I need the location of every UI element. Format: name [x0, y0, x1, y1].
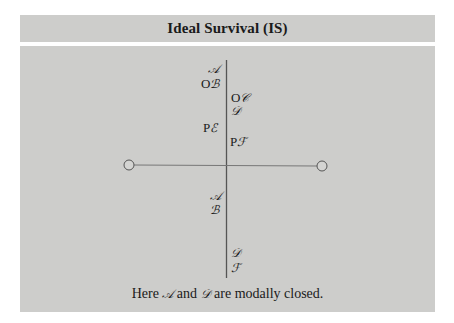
left-endpoint-circle [124, 160, 134, 170]
diagram-label-above-left: 𝒜 [208, 62, 219, 76]
script-symbol: ℰ [210, 121, 217, 135]
diagram-label-above-right: Pℱ [230, 135, 246, 149]
caption-symbol-a: 𝒜 [162, 287, 173, 301]
script-symbol: 𝒞 [240, 91, 249, 105]
right-endpoint-circle [317, 161, 327, 171]
horizontal-axis [134, 165, 317, 166]
script-symbol: 𝒟 [231, 104, 241, 118]
diagram-label-above-right: 𝒟 [231, 104, 241, 118]
script-symbol: ℬ [210, 77, 219, 91]
diagram-label-below-right: ℱ [231, 261, 240, 275]
script-symbol: 𝒜 [208, 62, 219, 76]
diagram-label-below-left: ℬ [210, 203, 219, 217]
modal-operator: O [231, 90, 240, 105]
script-symbol: ℱ [231, 261, 240, 275]
caption-text: Here [132, 286, 163, 301]
diagram-label-below-left: 𝒜 [210, 189, 221, 203]
caption-text: and [173, 286, 200, 301]
script-symbol: 𝒜 [210, 189, 221, 203]
script-symbol: 𝒟 [231, 246, 241, 260]
diagram-lines [0, 0, 454, 323]
caption-text: are modally closed. [211, 286, 324, 301]
modal-operator: O [201, 76, 210, 91]
caption-symbol-d: 𝒟 [201, 287, 211, 301]
diagram-label-above-right: O𝒞 [231, 91, 249, 105]
diagram-label-above-left: Pℰ [203, 121, 217, 135]
script-symbol: ℬ [210, 203, 219, 217]
diagram-caption: Here 𝒜 and 𝒟 are modally closed. [20, 286, 435, 302]
diagram-label-above-left: Oℬ [201, 77, 219, 91]
diagram-label-below-right: 𝒟 [231, 246, 241, 260]
script-symbol: ℱ [237, 135, 246, 149]
